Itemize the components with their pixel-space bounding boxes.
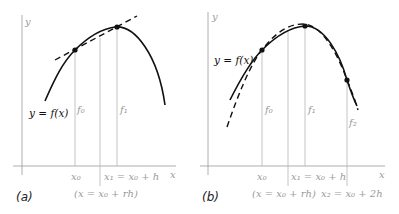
point-x0-f0: [259, 47, 264, 52]
y-axis-label: y: [211, 11, 218, 22]
interpolation-diagram: y x y = f(x) f₀ f₁ x₀ x₁ = x₀ + h (x = x…: [0, 0, 399, 214]
curve-label: y = f(x): [28, 107, 68, 119]
curve-label: y = f(x): [213, 54, 253, 66]
secant-line: [55, 16, 137, 60]
tick-label-x: (x = x₀ + rh): [74, 188, 138, 199]
point-x1-f1: [302, 23, 307, 28]
panel-a: y x y = f(x) f₀ f₁ x₀ x₁ = x₀ + h (x = x…: [13, 15, 176, 204]
curve-f: [230, 26, 357, 106]
tick-label-x2: x₂ = x₀ + 2h: [321, 188, 383, 199]
label-f1: f₁: [307, 104, 316, 115]
tick-label-x0: x₀: [71, 171, 81, 182]
label-f2: f₂: [348, 117, 357, 128]
panel-b: y x y = f(x) f₀ f₁ f₂ x₀ x₁ = x₀ + h (x …: [200, 11, 385, 204]
x-axis-label: x: [170, 169, 176, 180]
label-f0: f₀: [76, 104, 85, 115]
tick-label-x1: x₁ = x₀ + h: [291, 171, 346, 182]
tick-label-x1: x₁ = x₀ + h: [104, 171, 159, 182]
point-x0-f0: [72, 47, 77, 52]
tick-label-x: (x = x₀ + rh): [252, 188, 316, 199]
point-x1-f1: [114, 24, 119, 29]
x-axis-label: x: [379, 169, 385, 180]
panel-label-b: (b): [202, 190, 219, 204]
curve-f: [45, 27, 165, 105]
label-f0: f₀: [264, 104, 273, 115]
y-axis-label: y: [24, 16, 31, 27]
point-x2-f2: [344, 77, 349, 82]
label-f1: f₁: [119, 104, 128, 115]
interpolating-parabola: [227, 24, 358, 127]
panel-label-a: (a): [16, 190, 33, 204]
tick-label-x0: x₀: [257, 171, 267, 182]
